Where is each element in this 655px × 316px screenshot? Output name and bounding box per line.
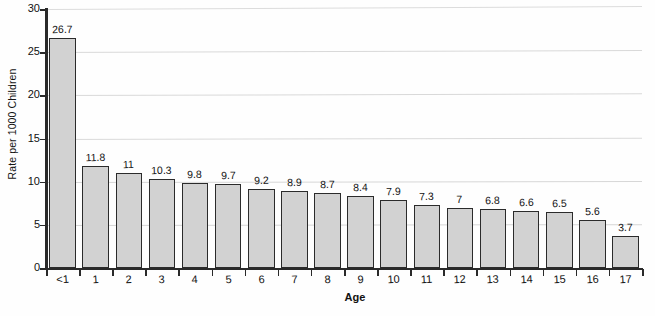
bar-1 <box>82 166 109 268</box>
y-tick-label-15: 15 <box>28 132 40 144</box>
bar-value-label-14: 6.6 <box>509 196 542 209</box>
bar-17 <box>612 236 639 268</box>
bar-value-label-4: 9.8 <box>178 168 211 181</box>
y-tick-label-30: 30 <box>28 2 40 14</box>
bar-value-label-16: 5.6 <box>575 204 608 217</box>
x-category-label-2: 2 <box>112 272 146 286</box>
x-category-label-16: 16 <box>575 272 609 286</box>
y-axis-line <box>45 8 48 269</box>
y-tick-label-10: 10 <box>28 175 40 187</box>
bar-16 <box>579 220 606 268</box>
x-category-label-17: 17 <box>609 272 643 286</box>
bar-11 <box>414 205 441 268</box>
bar-3 <box>149 179 176 268</box>
gridline-20 <box>46 94 642 97</box>
bar-<1 <box>49 38 76 269</box>
gridline-25 <box>46 50 642 53</box>
bar-value-label-2: 11 <box>112 158 145 171</box>
bar-value-label-13: 6.8 <box>476 194 509 207</box>
gridline-30 <box>46 6 642 10</box>
x-axis-title: Age <box>0 291 655 303</box>
x-category-label-5: 5 <box>211 272 245 286</box>
bar-4 <box>182 183 209 268</box>
plot-area: 26.711.81110.39.89.79.28.98.78.47.97.376… <box>46 9 642 268</box>
x-category-label-7: 7 <box>277 272 311 286</box>
x-category-label-15: 15 <box>542 272 576 286</box>
x-axis-line <box>45 268 643 270</box>
bar-5 <box>215 184 242 268</box>
y-axis-tick-labels: 051015202530 <box>0 9 40 268</box>
bar-value-label-5: 9.7 <box>211 169 244 182</box>
x-category-label-4: 4 <box>178 272 212 286</box>
bar-value-label-11: 7.3 <box>410 190 443 203</box>
y-tick-label-25: 25 <box>28 45 40 57</box>
bar-value-label-8: 8.7 <box>311 177 344 190</box>
x-category-label-<1: <1 <box>46 272 80 286</box>
bar-14 <box>513 211 540 268</box>
bar-value-label-6: 9.2 <box>244 173 277 186</box>
bar-15 <box>546 212 573 268</box>
bar-value-label-7: 8.9 <box>277 176 310 189</box>
bar-6 <box>248 189 275 268</box>
bar-10 <box>380 200 407 268</box>
bar-value-label-<1: 26.7 <box>46 22 79 35</box>
bar-13 <box>480 209 507 268</box>
x-category-label-12: 12 <box>443 272 477 286</box>
x-category-label-10: 10 <box>377 272 411 286</box>
bar-value-label-17: 3.7 <box>609 221 642 234</box>
x-category-label-14: 14 <box>509 272 543 286</box>
x-category-label-3: 3 <box>145 272 179 286</box>
bar-value-label-1: 11.8 <box>79 151 112 164</box>
gridline-15 <box>46 137 642 139</box>
bar-8 <box>314 193 341 268</box>
y-tick-label-5: 5 <box>34 218 40 230</box>
bar-value-label-12: 7 <box>443 192 476 205</box>
bar-value-label-15: 6.5 <box>542 196 575 209</box>
x-category-label-11: 11 <box>410 272 444 286</box>
bar-value-label-10: 7.9 <box>377 184 410 197</box>
bar-chart: Rate per 1000 Children 051015202530 26.7… <box>0 0 655 316</box>
y-tick-label-0: 0 <box>34 261 40 273</box>
bar-2 <box>116 173 143 268</box>
x-category-label-13: 13 <box>476 272 510 286</box>
bar-value-label-3: 10.3 <box>145 164 178 177</box>
bar-7 <box>281 191 308 268</box>
x-category-label-9: 9 <box>344 272 378 286</box>
bar-9 <box>347 196 374 269</box>
bar-value-label-9: 8.4 <box>344 180 377 193</box>
x-category-label-1: 1 <box>79 272 113 286</box>
y-tick-label-20: 20 <box>28 88 40 100</box>
bar-12 <box>447 208 474 268</box>
x-category-label-8: 8 <box>311 272 345 286</box>
x-category-label-6: 6 <box>244 272 278 286</box>
